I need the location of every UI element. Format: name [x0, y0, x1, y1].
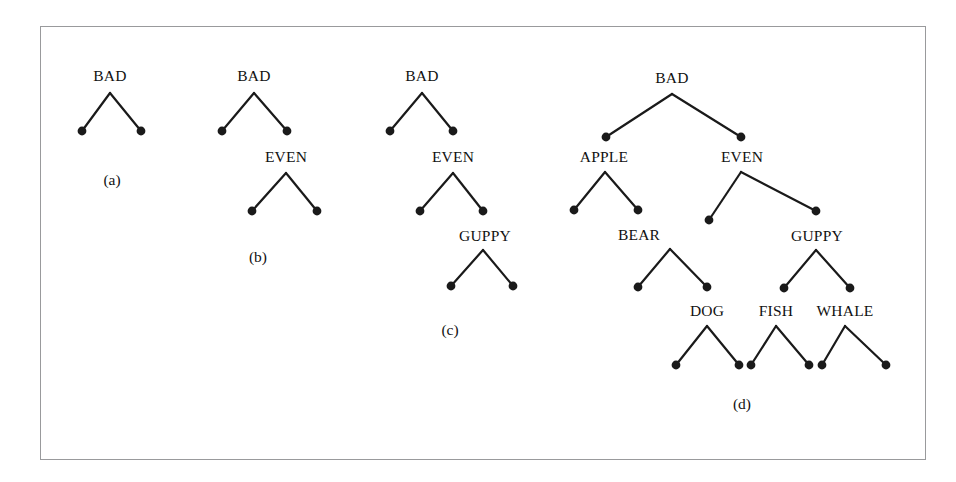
node-label-guppy: GUPPY: [791, 227, 843, 245]
node-label-guppy: GUPPY: [459, 227, 511, 245]
panel-caption-d: (d): [733, 395, 751, 413]
node-label-even: EVEN: [265, 148, 307, 166]
node-label-bad: BAD: [93, 67, 126, 85]
node-label-even: EVEN: [432, 148, 474, 166]
node-label-even: EVEN: [721, 148, 763, 166]
figure-root: BAD(a)BADEVEN(b)BADEVENGUPPY(c)BADAPPLEE…: [0, 0, 956, 482]
node-label-bad: BAD: [405, 67, 438, 85]
node-label-bad: BAD: [655, 69, 688, 87]
node-label-dog: DOG: [690, 302, 724, 320]
node-label-bear: BEAR: [618, 226, 660, 244]
node-label-bad: BAD: [237, 67, 270, 85]
panel-caption-c: (c): [441, 321, 458, 339]
node-label-fish: FISH: [759, 302, 793, 320]
panel-caption-b: (b): [249, 248, 267, 266]
node-label-whale: WHALE: [817, 302, 874, 320]
panel-caption-a: (a): [103, 171, 120, 189]
node-label-apple: APPLE: [580, 148, 628, 166]
